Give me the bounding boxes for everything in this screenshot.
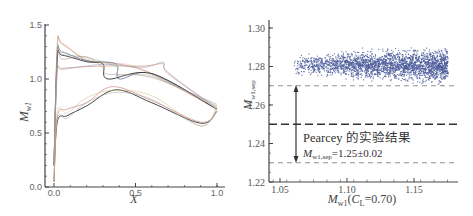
mach-curve [54, 87, 217, 182]
right-axes: 1.221.241.261.281.301.051.101.15 [248, 20, 459, 195]
mach-curve [54, 36, 217, 165]
left-chart: 0.00.51.01.50.00.51.0 X Mw1 [16, 20, 225, 206]
svg-text:Mw1: Mw1 [16, 102, 33, 123]
right-y-tick: 1.30 [248, 23, 266, 34]
right-y-tick: 1.24 [248, 138, 266, 149]
left-x-tick: 0.0 [48, 188, 61, 198]
left-x-label: X [129, 192, 138, 206]
mach-curve-variant [54, 62, 217, 165]
mach-curve-variant [54, 44, 217, 165]
right-chart: 1.221.241.261.281.301.051.101.15 Pearcey… [241, 20, 458, 208]
right-y-tick: 1.22 [248, 177, 266, 188]
left-y-tick: 1.0 [29, 74, 42, 84]
mach-curve-variant [54, 35, 217, 165]
right-x-label: Mw1(CL=0.70) [327, 192, 396, 208]
left-curves [54, 35, 217, 181]
left-y-tick: 0.0 [29, 182, 42, 192]
left-x-tick: 1.0 [211, 188, 224, 198]
left-y-tick: 0.5 [29, 128, 42, 138]
right-y-tick: 1.28 [248, 61, 266, 72]
left-y-tick: 1.5 [29, 20, 42, 30]
mach-curve-variant [54, 90, 217, 181]
left-y-label: Mw1 [16, 102, 33, 123]
scatter-points [294, 47, 449, 86]
mach-curve-variant [54, 48, 217, 166]
right-y-label: Mw1,sep [241, 80, 257, 111]
svg-text:Mw1,sep: Mw1,sep [241, 80, 257, 111]
figure: 0.00.51.01.50.00.51.0 X Mw1 1.221.241.26… [0, 0, 473, 216]
annotation-formula: Mw1,sep=1.25±0.02 [302, 147, 383, 161]
mach-curve [54, 63, 217, 166]
annotation-title: Pearcey 的实验结果 [303, 130, 411, 145]
right-x-tick: 1.05 [271, 184, 289, 195]
right-x-tick: 1.15 [405, 184, 423, 195]
